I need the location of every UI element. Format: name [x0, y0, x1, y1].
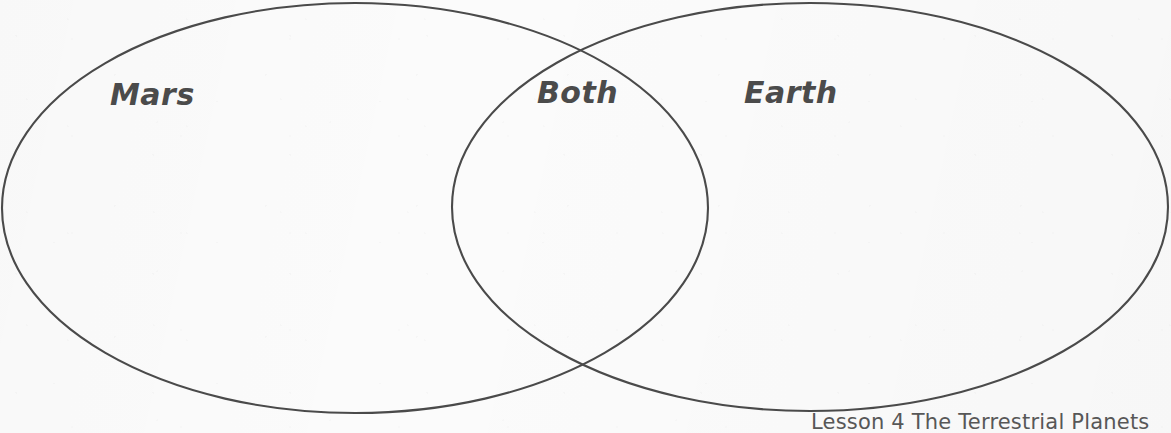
venn-circle-earth[interactable]	[452, 3, 1168, 411]
venn-circle-mars[interactable]	[2, 3, 708, 413]
venn-diagram	[0, 0, 1171, 433]
worksheet-page: Mars Both Earth Lesson 4 The Terrestrial…	[0, 0, 1171, 433]
venn-label-both: Both	[537, 78, 618, 108]
venn-label-earth: Earth	[744, 78, 838, 108]
venn-label-mars: Mars	[110, 80, 195, 110]
lesson-footer-caption: Lesson 4 The Terrestrial Planets	[811, 410, 1149, 433]
